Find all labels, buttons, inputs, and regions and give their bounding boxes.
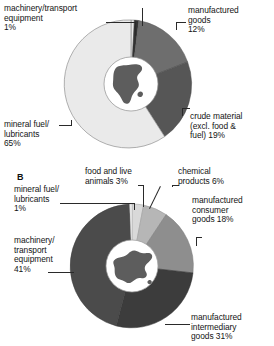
pie-chart-b bbox=[70, 202, 194, 334]
panel-letter-b: B bbox=[17, 172, 24, 182]
pie-a-svg bbox=[68, 18, 194, 150]
label-b-manufactured-intermediary: manufactured intermediary goods 31% bbox=[191, 313, 274, 342]
label-b-machinery: machinery/ transport equipment 41% bbox=[14, 236, 84, 274]
leader-b-food-drop bbox=[143, 185, 144, 207]
leader-a-crude bbox=[182, 108, 190, 109]
leader-a-manufactured-drop bbox=[142, 8, 143, 26]
label-a-crude-material: crude material (excl. food & fuel) 19% bbox=[190, 112, 272, 141]
leader-b-intermediary bbox=[165, 324, 190, 325]
pie-chart-a bbox=[68, 18, 194, 150]
leader-a-machinery bbox=[106, 22, 135, 23]
leader-a-manufactured-tick bbox=[176, 22, 177, 30]
leader-b-consumer-tick bbox=[196, 237, 197, 246]
label-b-chemical-products: chemical products 6% bbox=[178, 167, 268, 186]
label-b-food-live-animals: food and live animals 3% bbox=[85, 167, 161, 186]
leader-a-manufactured bbox=[176, 22, 186, 23]
label-b-manufactured-consumer: manufactured consumer goods 18% bbox=[192, 196, 274, 225]
leader-b-mineral-drop bbox=[134, 203, 135, 210]
leader-b-chemical bbox=[172, 185, 173, 187]
label-b-mineral-fuel: mineral fuel/ lubricants 1% bbox=[14, 185, 86, 214]
label-a-mineral-fuel: mineral fuel/ lubricants 65% bbox=[4, 120, 84, 149]
pie-b-svg bbox=[70, 202, 194, 334]
label-a-machinery: machinery/transport equipment 1% bbox=[4, 4, 104, 33]
leader-a-crude-tick bbox=[182, 108, 183, 116]
leader-a-machinery-drop bbox=[135, 22, 136, 36]
figure-canvas: machinery/transport equipment 1% manufac… bbox=[0, 0, 274, 346]
label-a-manufactured-goods: manufactured goods 12% bbox=[188, 6, 270, 35]
leader-b-consumer bbox=[196, 237, 202, 238]
